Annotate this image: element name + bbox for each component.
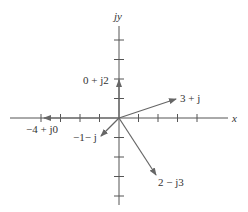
vector-3-plus-j xyxy=(119,99,176,118)
label-minus1-minus-j: −1− j xyxy=(73,131,97,143)
label-3-plus-j: 3 + j xyxy=(180,92,200,104)
vector-2-minus-j3 xyxy=(119,118,156,175)
label-0-plus-j2: 0 + j2 xyxy=(83,74,109,86)
label-minus4-plus-j0: −4 + j0 xyxy=(26,123,58,135)
y-axis-label: jy xyxy=(112,10,122,22)
x-axis-label: x xyxy=(231,112,237,124)
complex-plane-diagram: x jy 3 + j 0 + j2 −4 + j0 −1− j 2 − j3 xyxy=(0,0,248,212)
diagram-canvas: x jy 3 + j 0 + j2 −4 + j0 −1− j 2 − j3 xyxy=(0,0,248,212)
label-2-minus-j3: 2 − j3 xyxy=(158,176,184,188)
vector-minus1-minus-j xyxy=(101,118,119,136)
